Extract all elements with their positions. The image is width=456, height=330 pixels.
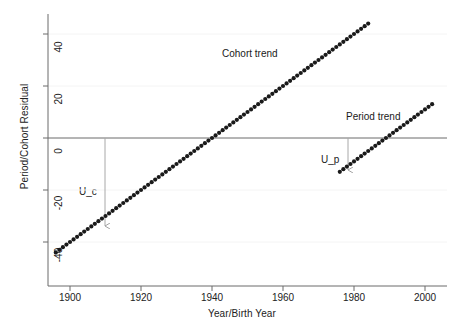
data-point [363,152,367,156]
data-point [292,76,296,80]
data-point [89,224,93,228]
data-point [366,149,370,153]
data-point [242,113,246,117]
data-point [416,113,420,117]
data-point [71,237,75,241]
data-point [213,133,217,137]
data-point [370,146,374,150]
data-point [253,105,257,109]
data-point [93,222,97,226]
data-point [263,97,267,101]
data-point [295,74,299,78]
data-point [228,123,232,127]
data-point [277,87,281,91]
data-point [341,40,345,44]
data-point [366,22,370,26]
data-point [412,115,416,119]
data-point [231,120,235,124]
data-point [118,204,122,208]
data-point [199,144,203,148]
data-point [391,131,395,135]
data-point [384,136,388,140]
data-point [86,227,90,231]
data-point [114,206,118,210]
data-point [210,136,214,140]
data-point [299,71,303,75]
data-point [178,159,182,163]
data-point [135,191,139,195]
data-point [111,209,115,213]
data-point [61,245,65,249]
data-point [324,53,328,57]
data-point [377,141,381,145]
data-point [217,131,221,135]
data-point [345,37,349,41]
data-point [341,167,345,171]
plot-area [0,0,456,330]
data-point [171,165,175,169]
chart-figure: Period/Cohort Residual Year/Birth Year 4… [0,0,456,330]
data-point [64,243,68,247]
data-point [355,29,359,33]
data-point [306,66,310,70]
data-point [281,84,285,88]
data-point [68,240,72,244]
data-point [352,159,356,163]
data-point [57,248,61,252]
data-point [387,133,391,137]
data-point [359,27,363,31]
data-point [419,110,423,114]
data-point [142,185,146,189]
data-point [224,126,228,130]
data-point [121,201,125,205]
data-point [359,154,363,158]
data-point [409,118,413,122]
data-point [405,120,409,124]
data-point [203,141,207,145]
data-point [192,149,196,153]
data-point [100,217,104,221]
data-point [352,32,356,36]
data-point [316,58,320,62]
data-point [260,100,264,104]
data-point [327,50,331,54]
data-point [196,146,200,150]
data-point [160,172,164,176]
data-point [284,81,288,85]
data-point [373,144,377,148]
data-point [132,193,136,197]
data-point [82,230,86,234]
data-point [164,170,168,174]
data-point [402,123,406,127]
data-point [54,250,58,254]
data-point [182,157,186,161]
data-point [249,107,253,111]
data-point [320,55,324,59]
data-point [334,45,338,49]
data-point [348,35,352,39]
data-point [345,165,349,169]
data-point [96,219,100,223]
data-point [103,214,107,218]
data-point [79,232,83,236]
data-point [185,154,189,158]
data-point [146,183,150,187]
data-point [174,162,178,166]
data-point [125,198,129,202]
data-point [238,115,242,119]
data-point [150,180,154,184]
x-axis [48,286,447,291]
data-point [380,139,384,143]
data-point [75,235,79,239]
data-point [107,211,111,215]
data-point [153,178,157,182]
y-axis [43,14,48,286]
data-point [423,107,427,111]
data-point [274,89,278,93]
data-point [395,128,399,132]
data-point [206,139,210,143]
data-point [221,128,225,132]
data-point [426,105,430,109]
data-point [302,68,306,72]
data-point [309,63,313,67]
